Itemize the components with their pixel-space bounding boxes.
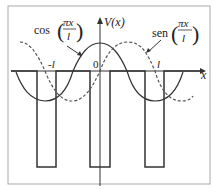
y-axis-arrow-icon bbox=[97, 17, 103, 24]
cos-label: cos ( πx l ) bbox=[34, 16, 83, 43]
tick-pos-l: l bbox=[157, 58, 160, 70]
potential-wells bbox=[11, 71, 200, 167]
diagram-canvas: V(x) x 0 -l l cos ( πx l ) sen ( πx l ) bbox=[0, 0, 214, 189]
svg-text:πx: πx bbox=[178, 17, 189, 29]
tick-neg-l: -l bbox=[48, 58, 55, 70]
svg-text:sen: sen bbox=[152, 26, 168, 40]
x-axis-label: x bbox=[200, 68, 207, 82]
svg-text:l: l bbox=[67, 30, 70, 42]
svg-text:): ) bbox=[192, 21, 199, 46]
svg-text:l: l bbox=[182, 32, 185, 44]
sen-pointer-arrow-icon bbox=[146, 48, 151, 53]
y-axis-label: V(x) bbox=[104, 15, 125, 29]
svg-text:cos: cos bbox=[34, 23, 50, 37]
svg-text:πx: πx bbox=[63, 16, 74, 28]
svg-text:): ) bbox=[76, 18, 83, 43]
origin-label: 0 bbox=[93, 58, 99, 70]
